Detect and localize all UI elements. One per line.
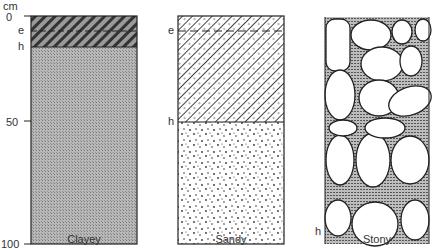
caption-stony: Stony [327,233,427,245]
axis-tick-0: 0 [6,12,12,23]
sandy-horizon-e: e [168,25,174,36]
clayey-horizon-e: e [18,25,24,36]
stony-profile [325,17,435,246]
soil-profiles-diagram [0,0,437,250]
clayey-horizon-h: h [18,41,24,52]
caption-sandy: Sandy [181,233,281,245]
caption-clayey: Clayey [34,233,134,245]
stony-horizon-h: h [315,226,321,237]
axis-tick-50: 50 [6,117,18,128]
sandy-profile [178,16,284,244]
sandy-horizon-h: h [168,116,174,127]
axis-tick-100: 100 [1,239,19,250]
clayey-profile [24,16,137,244]
